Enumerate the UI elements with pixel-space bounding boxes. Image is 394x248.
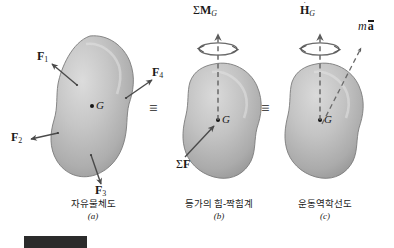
force-label-f4: F4 [152, 66, 163, 80]
overbar-accent [368, 20, 374, 21]
body-label-c: G [324, 114, 332, 125]
rotation-arrowhead2-c [300, 46, 306, 52]
center-of-mass-dot-a [90, 104, 94, 108]
force-label-f3: F3 [95, 184, 106, 198]
panel-c-kinetic-diagram [285, 34, 363, 178]
inertia-label-c: ma [358, 20, 374, 32]
caption-panel-a: 자유물체도 (a) [40, 199, 146, 222]
panel-b-equivalent-force-couple [183, 34, 261, 178]
moment-label-b: ΣMG [193, 4, 217, 18]
figure-number-banner [24, 236, 87, 248]
caption-panel-b: 등가의 힘-짝힘계 (b) [166, 199, 272, 222]
panel-a-free-body-diagram [31, 36, 152, 184]
force-label-f1: F1 [37, 50, 48, 64]
body-label-b: G [222, 114, 230, 125]
body-label-a: G [96, 100, 104, 111]
equivalence-symbol-1: ≡ [149, 100, 157, 117]
equivalence-symbol-2: ≡ [261, 100, 269, 117]
rotation-arrowhead2-b [198, 46, 204, 52]
force-label-f2: F2 [11, 131, 22, 145]
overdot-accent: ˙ [303, 1, 306, 10]
rotation-arrowhead-c [334, 46, 340, 52]
caption-panel-c: 운동역학선도 (c) [272, 199, 378, 222]
angular-momentum-rate-label-c: ˙HG [300, 4, 315, 18]
resultant-force-label-b: ΣF [176, 158, 190, 170]
rotation-arrowhead-b [232, 46, 238, 52]
